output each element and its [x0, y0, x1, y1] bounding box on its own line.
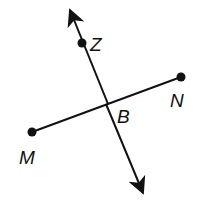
point-z-dot	[78, 39, 87, 48]
point-m-dot	[28, 128, 37, 137]
label-n: N	[170, 90, 184, 111]
line-zb	[70, 10, 108, 104]
label-b: B	[117, 106, 130, 127]
geometry-diagram: Z M N B	[0, 0, 202, 211]
label-m: M	[19, 147, 35, 168]
point-n-dot	[177, 73, 186, 82]
label-z: Z	[89, 34, 103, 55]
